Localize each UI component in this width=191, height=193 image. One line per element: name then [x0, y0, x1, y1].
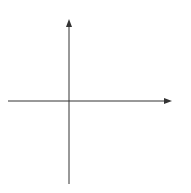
x-axis-arrow-icon	[164, 98, 172, 104]
polynomial-graph	[0, 0, 191, 193]
y-axis-arrow-icon	[66, 19, 72, 27]
